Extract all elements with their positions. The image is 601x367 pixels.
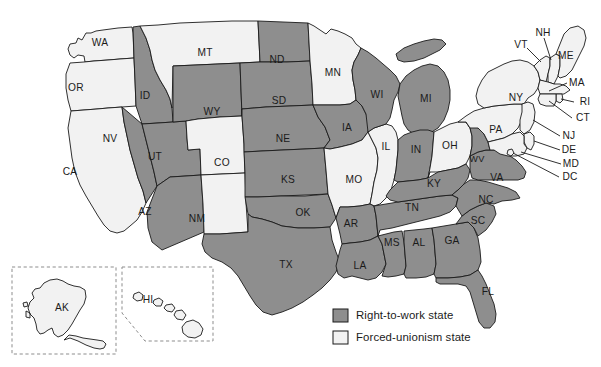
state-NM[interactable] bbox=[201, 173, 248, 234]
label-NV: NV bbox=[103, 133, 118, 144]
label-NY: NY bbox=[509, 92, 524, 103]
label-TN: TN bbox=[405, 202, 419, 213]
label-OH: OH bbox=[442, 140, 458, 151]
label-TX: TX bbox=[279, 259, 293, 270]
state-IN[interactable] bbox=[394, 130, 434, 182]
label-MD: MD bbox=[563, 158, 579, 169]
label-CA: CA bbox=[63, 166, 78, 177]
label-IL: IL bbox=[382, 141, 391, 152]
label-AR: AR bbox=[344, 218, 359, 229]
leader-line-CT bbox=[549, 101, 572, 118]
legend-swatch-forced-unionism bbox=[333, 331, 348, 344]
label-ND: ND bbox=[269, 54, 284, 65]
state-NJ[interactable] bbox=[520, 102, 535, 134]
label-NJ: NJ bbox=[563, 130, 576, 141]
label-WY: WY bbox=[204, 106, 221, 117]
label-VT: VT bbox=[514, 39, 528, 50]
label-WI: WI bbox=[371, 89, 384, 100]
label-AL: AL bbox=[413, 237, 426, 248]
label-PA: PA bbox=[489, 124, 502, 135]
label-NH: NH bbox=[535, 27, 550, 38]
label-MA: MA bbox=[569, 77, 585, 88]
label-VA: VA bbox=[490, 172, 503, 183]
label-CO: CO bbox=[214, 157, 230, 168]
state-KS[interactable] bbox=[244, 148, 328, 197]
legend-label-forced-unionism: Forced-unionism state bbox=[356, 331, 471, 343]
leader-line-NJ bbox=[533, 120, 560, 136]
state-MI[interactable] bbox=[396, 39, 450, 135]
state-AK[interactable] bbox=[23, 279, 106, 349]
state-AL[interactable] bbox=[404, 228, 436, 278]
label-UT: UT bbox=[148, 151, 162, 162]
label-RI: RI bbox=[580, 96, 591, 107]
label-SC: SC bbox=[471, 215, 486, 226]
leader-line-MD bbox=[521, 152, 561, 164]
label-MI: MI bbox=[420, 93, 432, 104]
us-map-svg: WA OR CA ID NV UT AZ MT WY CO NM ND SD N… bbox=[0, 0, 601, 367]
label-OK: OK bbox=[295, 207, 310, 218]
label-AK: AK bbox=[55, 302, 69, 313]
label-MS: MS bbox=[384, 237, 400, 248]
label-FL: FL bbox=[482, 286, 494, 297]
label-NC: NC bbox=[478, 194, 493, 205]
label-WV: WV bbox=[469, 154, 485, 164]
label-SD: SD bbox=[272, 95, 287, 106]
label-IA: IA bbox=[342, 122, 352, 133]
map-legend: Right-to-work state Forced-unionism stat… bbox=[333, 309, 471, 344]
label-LA: LA bbox=[354, 260, 367, 271]
label-MN: MN bbox=[325, 67, 341, 78]
label-IN: IN bbox=[411, 144, 422, 155]
label-AZ: AZ bbox=[138, 206, 152, 217]
leader-line-VT bbox=[527, 48, 541, 62]
label-GA: GA bbox=[444, 235, 459, 246]
label-MT: MT bbox=[197, 47, 212, 58]
state-GA[interactable] bbox=[432, 222, 481, 278]
label-DC: DC bbox=[562, 171, 577, 182]
label-KS: KS bbox=[281, 174, 295, 185]
legend-label-right-to-work: Right-to-work state bbox=[356, 309, 454, 321]
label-NE: NE bbox=[276, 133, 291, 144]
label-OR: OR bbox=[68, 82, 84, 93]
label-ME: ME bbox=[558, 50, 574, 61]
label-MO: MO bbox=[346, 174, 363, 185]
leader-line-DE bbox=[534, 141, 560, 150]
state-RI[interactable] bbox=[556, 94, 563, 103]
label-KY: KY bbox=[427, 178, 441, 189]
label-HI: HI bbox=[143, 294, 154, 305]
label-DE: DE bbox=[562, 144, 577, 155]
label-ID: ID bbox=[140, 90, 151, 101]
legend-swatch-right-to-work bbox=[333, 309, 348, 322]
label-WA: WA bbox=[92, 37, 109, 48]
label-NM: NM bbox=[189, 213, 205, 224]
label-CT: CT bbox=[576, 112, 590, 123]
us-map-figure: WA OR CA ID NV UT AZ MT WY CO NM ND SD N… bbox=[0, 0, 601, 367]
